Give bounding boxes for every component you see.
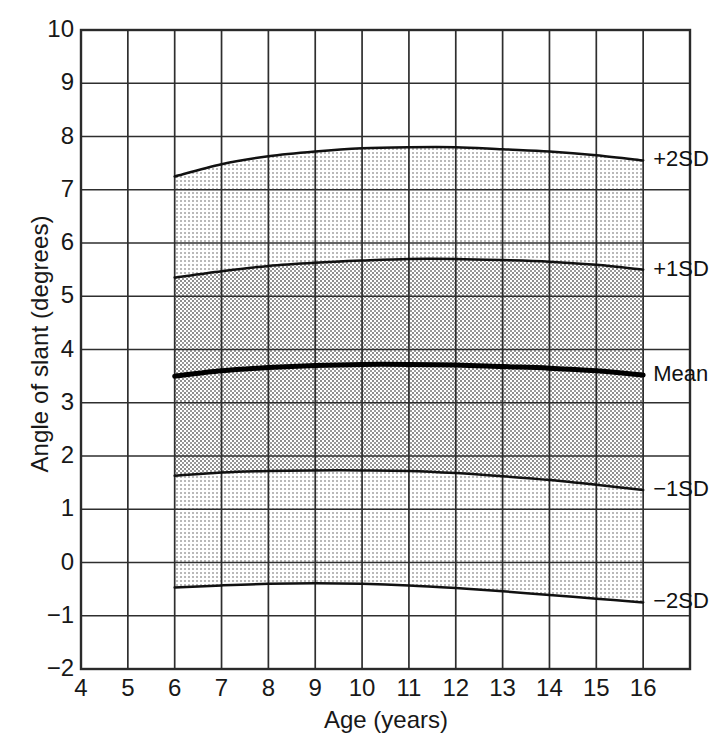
curve-label-plus1sd: +1SD <box>653 258 709 280</box>
curve-label-minus1sd: −1SD <box>653 478 709 500</box>
plot-area <box>0 0 718 747</box>
chart-figure: Angle of slant (degrees) Age (years) −2−… <box>0 0 718 747</box>
curve-label-plus2sd: +2SD <box>653 148 709 170</box>
curve-label-minus2sd: −2SD <box>653 590 709 612</box>
curve-label-mean: Mean <box>653 363 708 385</box>
